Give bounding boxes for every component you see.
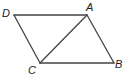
vertex-label-B: B	[115, 58, 122, 70]
diagonal-AC	[40, 15, 87, 63]
vertex-label-D: D	[2, 7, 10, 19]
vertex-label-C: C	[28, 64, 36, 75]
edge-AB	[87, 15, 114, 63]
edge-CD	[14, 15, 40, 63]
diagram-canvas: D A B C	[0, 0, 123, 75]
parallelogram-diagram: D A B C	[0, 0, 123, 75]
vertex-label-A: A	[85, 1, 93, 13]
